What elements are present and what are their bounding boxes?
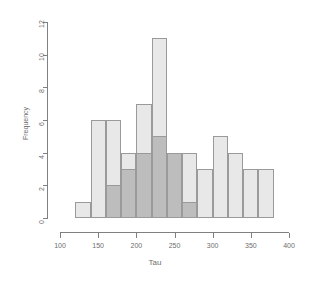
- x-tick-mark: [251, 233, 252, 238]
- histogram-bar: [213, 136, 228, 218]
- x-tick-label: 150: [83, 242, 113, 250]
- x-tick-mark: [213, 233, 214, 238]
- x-tick-mark: [175, 233, 176, 238]
- histogram-bar: [167, 153, 182, 218]
- x-tick-mark: [289, 233, 290, 238]
- histogram-bar: [243, 169, 258, 218]
- histogram-bar: [152, 136, 167, 218]
- x-tick-mark: [136, 233, 137, 238]
- y-axis-title: Frequency: [22, 107, 29, 140]
- x-axis-title: Tau: [0, 258, 310, 267]
- x-tick-label: 200: [121, 242, 151, 250]
- histogram-bar: [75, 202, 90, 218]
- histogram-bar: [182, 202, 197, 218]
- y-tick-label: 2: [38, 187, 45, 191]
- y-tick-label: 10: [38, 53, 45, 61]
- x-tick-label: 100: [45, 242, 75, 250]
- histogram-bar: [258, 169, 273, 218]
- histogram-bar: [106, 185, 121, 218]
- y-tick-label: 6: [38, 122, 45, 126]
- x-tick-mark: [98, 233, 99, 238]
- x-tick-label: 350: [236, 242, 266, 250]
- x-tick-mark: [60, 233, 61, 238]
- y-tick-label: 0: [38, 220, 45, 224]
- x-tick-label: 400: [274, 242, 304, 250]
- y-tick-label: 4: [38, 155, 45, 159]
- x-tick-label: 250: [160, 242, 190, 250]
- histogram-plot: 024681012 100150200250300350400 Frequenc…: [0, 0, 310, 290]
- histogram-bar: [121, 169, 136, 218]
- y-tick-label: 12: [38, 20, 45, 28]
- histogram-bar: [91, 120, 106, 218]
- histogram-bar: [136, 153, 151, 218]
- x-tick-label: 300: [198, 242, 228, 250]
- y-tick-mark: [43, 120, 48, 121]
- histogram-bar: [197, 169, 212, 218]
- y-tick-mark: [43, 218, 48, 219]
- y-tick-mark: [43, 153, 48, 154]
- histogram-bar: [228, 153, 243, 218]
- y-tick-label: 8: [38, 89, 45, 93]
